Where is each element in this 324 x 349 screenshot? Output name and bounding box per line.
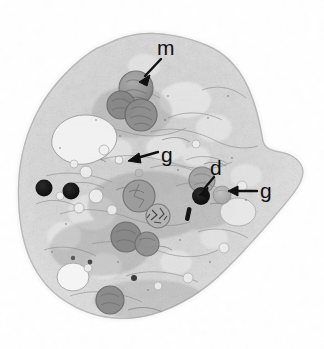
label-d: d: [210, 157, 222, 178]
granule-labeled-right: [213, 186, 231, 204]
electron-micrograph-figure: m g d g: [0, 0, 324, 349]
label-g-left: g: [161, 144, 173, 165]
granule-center: [146, 204, 170, 228]
dense-body-left-1: [36, 180, 53, 197]
dense-body-left-2: [63, 183, 80, 200]
label-m: m: [157, 37, 175, 58]
label-g-right: g: [260, 180, 272, 201]
mitochondrion-upper-3: [125, 99, 157, 131]
granule-small-left: [135, 169, 143, 177]
mitochondrion-lower-2: [135, 232, 159, 256]
mitochondrion-bottom: [96, 286, 124, 314]
